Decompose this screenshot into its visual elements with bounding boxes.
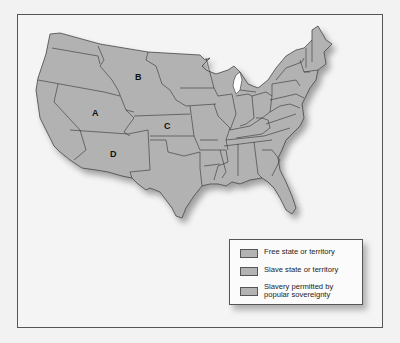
map-legend: Free state or territory Slave state or t…	[229, 239, 363, 305]
us-outline	[36, 26, 332, 218]
legend-swatch-popular-sovereignty	[240, 287, 258, 296]
region-label-a: A	[92, 108, 99, 118]
legend-item-free: Free state or territory	[240, 248, 335, 258]
region-label-d: D	[110, 149, 117, 159]
legend-label-slave: Slave state or territory	[264, 266, 338, 274]
legend-swatch-free	[240, 249, 258, 258]
legend-item-slave: Slave state or territory	[240, 266, 338, 276]
legend-swatch-slave	[240, 267, 258, 276]
region-label-c: C	[164, 121, 171, 131]
legend-label-free: Free state or territory	[264, 248, 335, 256]
region-label-b: B	[135, 72, 142, 82]
legend-item-popular-sovereignty: Slavery permitted by popular sovereignty	[240, 283, 333, 300]
legend-label-popular-sovereignty: Slavery permitted by popular sovereignty	[264, 283, 333, 300]
